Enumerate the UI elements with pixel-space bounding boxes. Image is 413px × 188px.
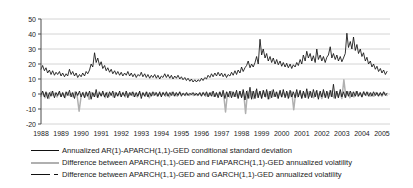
chart-legend: Annualized AR(1)-APARCH(1,1)-GED conditi… bbox=[0, 144, 413, 188]
x-tick-label: 1998 bbox=[234, 130, 250, 137]
y-tick-label: -20 bbox=[26, 121, 36, 128]
x-tick-label: 2003 bbox=[334, 130, 350, 137]
legend-swatch-solid-gray-icon bbox=[31, 157, 59, 167]
x-tick-label: 1990 bbox=[73, 130, 89, 137]
chart-plot-area: 50403020100-10-20 1988198919901991199219… bbox=[0, 0, 413, 145]
y-axis-tick-labels: 50403020100-10-20 bbox=[26, 16, 36, 128]
x-tick-label: 1994 bbox=[154, 130, 170, 137]
y-tick-label: 30 bbox=[28, 46, 36, 53]
x-tick-label: 1997 bbox=[214, 130, 230, 137]
legend-swatch-solid-black-icon bbox=[31, 145, 59, 155]
x-tick-label: 1988 bbox=[33, 130, 49, 137]
x-tick-label: 1991 bbox=[93, 130, 109, 137]
x-tick-label: 1993 bbox=[133, 130, 149, 137]
x-axis-tick-labels: 1988198919901991199219931994199519961997… bbox=[33, 130, 390, 137]
y-tick-label: 40 bbox=[28, 31, 36, 38]
y-tick-label: 0 bbox=[32, 91, 36, 98]
legend-item-0: Annualized AR(1)-APARCH(1,1)-GED conditi… bbox=[0, 144, 413, 156]
x-tick-label: 2002 bbox=[314, 130, 330, 137]
x-tick-label: 2001 bbox=[294, 130, 310, 137]
volatility-chart-figure: 50403020100-10-20 1988198919901991199219… bbox=[0, 0, 413, 188]
legend-label-0: Annualized AR(1)-APARCH(1,1)-GED conditi… bbox=[62, 146, 292, 155]
y-tick-label: -10 bbox=[26, 106, 36, 113]
x-tick-label: 1992 bbox=[113, 130, 129, 137]
x-tick-label: 1996 bbox=[194, 130, 210, 137]
series-line-0 bbox=[41, 33, 387, 82]
legend-item-2: Difference between APARCH(1,1)-GED and G… bbox=[0, 168, 413, 180]
y-tick-label: 10 bbox=[28, 76, 36, 83]
y-tick-label: 20 bbox=[28, 61, 36, 68]
legend-item-1: Difference between APARCH(1,1)-GED and F… bbox=[0, 156, 413, 168]
y-tick-label: 50 bbox=[28, 16, 36, 23]
y-axis bbox=[38, 19, 41, 124]
gridlines bbox=[41, 19, 390, 124]
legend-label-1: Difference between APARCH(1,1)-GED and F… bbox=[62, 158, 352, 167]
x-tick-label: 1995 bbox=[174, 130, 190, 137]
x-tick-label: 2005 bbox=[374, 130, 390, 137]
x-tick-label: 1989 bbox=[53, 130, 69, 137]
x-tick-label: 2000 bbox=[274, 130, 290, 137]
legend-swatch-dashed-black-icon bbox=[31, 169, 59, 179]
data-series-group bbox=[41, 33, 387, 113]
legend-label-2: Difference between APARCH(1,1)-GED and G… bbox=[62, 170, 342, 179]
x-tick-label: 1999 bbox=[254, 130, 270, 137]
x-tick-label: 2004 bbox=[354, 130, 370, 137]
